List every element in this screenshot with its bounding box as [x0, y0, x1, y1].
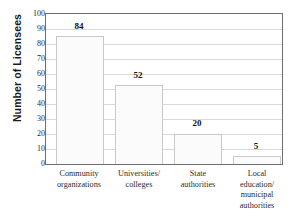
bar-local-education-municipal-authorities — [233, 156, 281, 164]
bar-value-local-education-municipal-authorities: 5 — [232, 141, 280, 151]
x-category-line: Local — [222, 169, 292, 180]
x-category-label-local-education-municipal-authorities: Local education/ municipal authorities — [222, 169, 292, 211]
bar-chart: Number of Licensees 100 90 80 70 60 50 4… — [0, 0, 295, 223]
y-tick-label-60: 60 — [21, 70, 45, 78]
bar-value-state-authorities: 20 — [173, 118, 221, 128]
x-category-line: municipal — [222, 190, 292, 201]
y-tick-label-70: 70 — [21, 55, 45, 63]
y-tick-label-20: 20 — [21, 130, 45, 138]
y-axis-title: Number of Licensees — [11, 3, 23, 133]
bar-value-universities-colleges: 52 — [114, 70, 162, 80]
y-tick-label-40: 40 — [21, 100, 45, 108]
y-tick-label-10: 10 — [21, 145, 45, 153]
bar-community-organizations — [56, 36, 104, 164]
y-tick-label-80: 80 — [21, 40, 45, 48]
bar-universities-colleges — [115, 85, 163, 164]
y-tick-label-0: 0 — [21, 160, 45, 168]
x-category-line: authorities — [222, 201, 292, 212]
y-tick-label-100: 100 — [21, 10, 45, 18]
bar-value-community-organizations: 84 — [55, 21, 103, 31]
y-tick-label-90: 90 — [21, 25, 45, 33]
x-category-line: education/ — [222, 180, 292, 191]
bar-state-authorities — [174, 134, 222, 164]
y-tick-label-30: 30 — [21, 115, 45, 123]
y-tick-label-50: 50 — [21, 85, 45, 93]
